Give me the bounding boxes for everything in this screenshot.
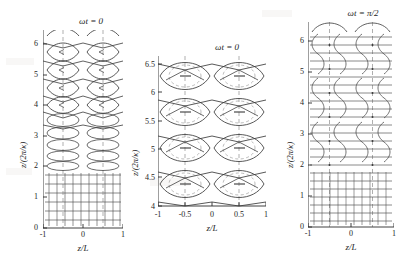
panel-middle-xtick-4: 1	[256, 210, 276, 219]
panel-left-ytick-5: 5	[22, 70, 38, 79]
figure-root: ωt = 0	[0, 0, 405, 279]
panel-left-plot	[43, 30, 123, 235]
panel-middle-ytick-4: 6	[133, 88, 155, 97]
panel-left-xtick-0: -1	[33, 230, 53, 239]
panel-left-ytick-3: 3	[22, 131, 38, 140]
panel-middle-xlabel: z/L	[182, 223, 242, 233]
panel-right-plot	[308, 22, 394, 234]
panel-left-title: ωt = 0	[60, 16, 122, 26]
panel-right-ytick-1: 1	[288, 191, 304, 200]
panel-middle-xtick-0: -1	[148, 210, 168, 219]
panel-left-xtick-2: 1	[113, 230, 133, 239]
panel-left-ytick-4: 4	[22, 100, 38, 109]
panel-left-ytick-6: 6	[22, 39, 38, 48]
scan-smudge	[6, 58, 34, 65]
panel-right-ytick-6: 6	[288, 36, 304, 45]
panel-right-vector-field	[308, 22, 394, 234]
panel-middle-ytick-5: 6.5	[133, 60, 155, 69]
panel-middle-xtick-1: -0.5	[172, 210, 198, 219]
panel-right-ylabel: z/(2π/κ)	[285, 142, 295, 168]
panel-middle-ytick-3: 5.5	[133, 117, 155, 126]
panel-left-ytick-1: 1	[22, 192, 38, 201]
panel-left-xtick-1: 0	[73, 230, 93, 239]
panel-left-vector-field	[43, 30, 123, 235]
panel-left-xlabel: z/L	[53, 243, 113, 253]
panel-right-ytick-3: 3	[288, 129, 304, 138]
panel-middle-title: ωt = 0	[196, 42, 258, 52]
panel-right-xtick-0: -1	[298, 229, 318, 238]
panel-middle-vector-field	[158, 56, 266, 212]
scan-smudge	[262, 10, 292, 17]
panel-left-ylabel: z/(2π/κ)	[18, 142, 28, 168]
panel-right-title: ωt = π/2	[330, 8, 396, 18]
panel-right-xlabel: z/L	[321, 242, 381, 252]
panel-middle-xtick-3: 0.5	[226, 210, 252, 219]
panel-right-ytick-4: 4	[288, 98, 304, 107]
panel-middle-xtick-2: 0	[202, 210, 222, 219]
panel-middle-plot	[158, 56, 266, 212]
panel-right-xtick-1: 0	[341, 229, 361, 238]
panel-right-xtick-2: 1	[384, 229, 404, 238]
panel-middle-ylabel: z/(2π/κ)	[130, 150, 140, 176]
panel-right-ytick-5: 5	[288, 67, 304, 76]
